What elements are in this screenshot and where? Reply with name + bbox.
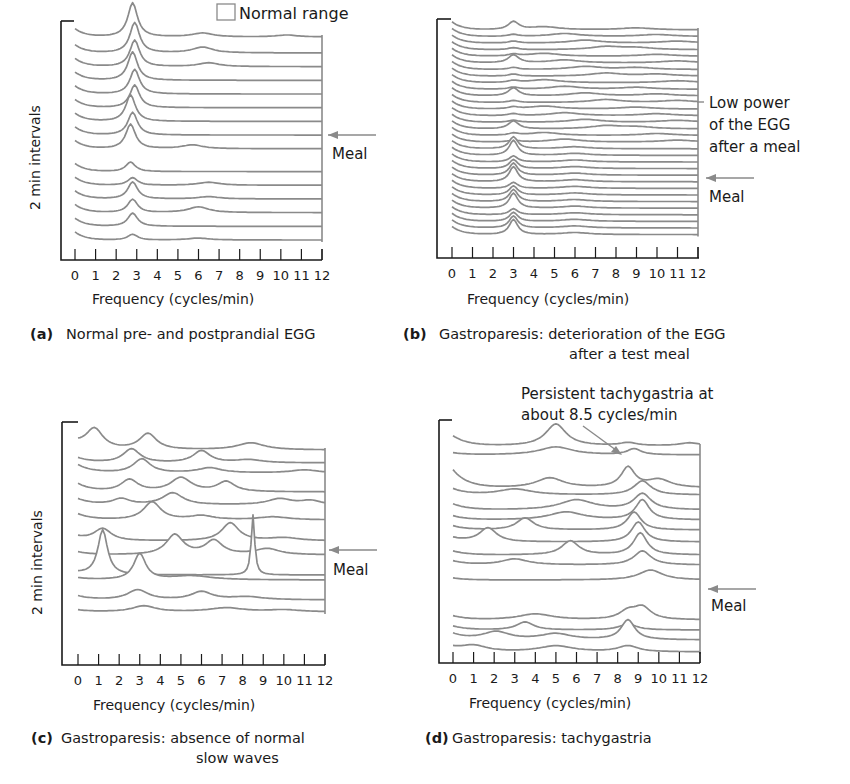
tick-label: 2	[112, 268, 120, 283]
caption-b-line1: Gastroparesis: deterioration of the EGG	[439, 326, 726, 342]
xlabel-a: Frequency (cycles/min)	[92, 291, 254, 307]
legend-label: Normal range	[239, 4, 349, 23]
tick-label: 8	[239, 673, 247, 688]
panel-d: 0123456789101112 Frequency (cycles/min) …	[425, 385, 756, 746]
tick-label: 4	[530, 266, 538, 281]
tick-label: 1	[94, 673, 102, 688]
tick-label: 0	[71, 268, 79, 283]
tick-label: 1	[469, 671, 477, 686]
caption-letter-a: (a)	[30, 326, 53, 342]
tick-label: 3	[136, 673, 144, 688]
panel-a: 0123456789101112 2 min intervals Frequen…	[27, 3, 376, 342]
traces-b	[452, 21, 698, 275]
caption-c-line2: slow waves	[196, 750, 279, 766]
tick-label: 7	[218, 673, 226, 688]
tick-label: 2	[115, 673, 123, 688]
panel-c: 0123456789101112 2 min intervals Frequen…	[29, 422, 377, 766]
tick-label: 9	[632, 266, 640, 281]
tick-label: 7	[593, 671, 601, 686]
tick-label: 2	[489, 266, 497, 281]
caption-letter-d: (d)	[425, 730, 449, 746]
arrowhead-icon	[328, 131, 338, 139]
low-power-line2: of the EGG	[709, 116, 790, 134]
tick-label: 11	[671, 671, 688, 686]
figure: Normal range 0123456789101112 2 min inte…	[0, 0, 850, 784]
tick-label: 2	[490, 671, 498, 686]
ticks-c: 0123456789101112	[74, 654, 333, 688]
tick-label: 6	[194, 268, 202, 283]
tick-label: 11	[293, 268, 310, 283]
traces-d	[453, 424, 700, 692]
meal-label-a: Meal	[332, 145, 368, 163]
arrowhead-icon	[329, 546, 339, 554]
tick-label: 11	[669, 266, 686, 281]
tick-label: 12	[692, 671, 709, 686]
tick-label: 10	[651, 671, 668, 686]
meal-label-d: Meal	[711, 597, 747, 615]
caption-b-line2: after a test meal	[569, 346, 690, 362]
legend-normal-range: Normal range	[217, 4, 349, 23]
ylabel-c: 2 min intervals	[29, 510, 45, 615]
tick-label: 6	[197, 673, 205, 688]
xlabel-b: Frequency (cycles/min)	[467, 291, 629, 307]
tick-label: 5	[552, 671, 560, 686]
tick-label: 10	[276, 673, 293, 688]
tick-label: 12	[314, 268, 331, 283]
traces-c	[78, 427, 325, 652]
tick-label: 11	[296, 673, 313, 688]
caption-a: Normal pre- and postprandial EGG	[66, 326, 316, 342]
tick-label: 3	[509, 266, 517, 281]
tick-label: 5	[550, 266, 558, 281]
tick-label: 12	[690, 266, 707, 281]
traces-a	[75, 3, 322, 280]
tick-label: 9	[259, 673, 267, 688]
tick-label: 9	[634, 671, 642, 686]
tick-label: 6	[572, 671, 580, 686]
tick-label: 1	[91, 268, 99, 283]
tachy-annotation-line2: about 8.5 cycles/min	[521, 406, 678, 424]
caption-letter-c: (c)	[31, 730, 53, 746]
tick-label: 4	[531, 671, 539, 686]
tick-label: 3	[133, 268, 141, 283]
arrowhead-icon	[708, 585, 718, 593]
panel-b: 0123456789101112 Frequency (cycles/min) …	[403, 19, 800, 362]
legend-swatch	[217, 4, 235, 20]
tick-label: 4	[153, 268, 161, 283]
tick-label: 9	[256, 268, 264, 283]
xlabel-d: Frequency (cycles/min)	[469, 695, 631, 711]
caption-letter-b: (b)	[403, 326, 427, 342]
tick-label: 7	[591, 266, 599, 281]
meal-label-b: Meal	[709, 188, 745, 206]
tick-label: 7	[215, 268, 223, 283]
tick-label: 8	[614, 671, 622, 686]
xlabel-c: Frequency (cycles/min)	[93, 697, 255, 713]
tick-label: 10	[273, 268, 290, 283]
tick-label: 0	[449, 671, 457, 686]
low-power-line1: Low power	[709, 94, 791, 112]
tick-label: 1	[468, 266, 476, 281]
tick-label: 5	[174, 268, 182, 283]
tick-label: 0	[74, 673, 82, 688]
caption-d: Gastroparesis: tachygastria	[452, 730, 652, 746]
tick-label: 12	[317, 673, 334, 688]
tick-label: 10	[649, 266, 666, 281]
low-power-line3: after a meal	[709, 138, 800, 156]
tick-label: 4	[156, 673, 164, 688]
ylabel-a: 2 min intervals	[27, 105, 43, 210]
tick-label: 5	[177, 673, 185, 688]
tick-label: 8	[612, 266, 620, 281]
meal-label-c: Meal	[333, 561, 369, 579]
arrowhead-icon	[706, 174, 716, 182]
spectrum-trace	[452, 21, 698, 30]
tick-label: 6	[571, 266, 579, 281]
tick-label: 3	[511, 671, 519, 686]
tachy-annotation-line1: Persistent tachygastria at	[521, 385, 714, 403]
tick-label: 8	[236, 268, 244, 283]
tick-label: 0	[448, 266, 456, 281]
caption-c-line1: Gastroparesis: absence of normal	[61, 730, 305, 746]
